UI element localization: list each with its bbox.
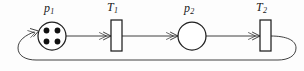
transition-t2-bar xyxy=(260,20,271,51)
transition-t1-label: T1 xyxy=(107,1,118,15)
transition-t2-label: T2 xyxy=(256,1,267,15)
place-p1-label: p1 xyxy=(44,2,54,16)
token-dot xyxy=(44,39,50,45)
token-dot xyxy=(44,28,50,34)
transition-t1-label-subscript: 1 xyxy=(114,6,118,15)
transition-t2[interactable] xyxy=(260,20,271,51)
transition-t1-bar xyxy=(111,20,122,51)
transition-t2-label-subscript: 2 xyxy=(263,6,267,15)
arc-t1-to-p2 xyxy=(122,32,178,40)
place-p2-label-subscript: 2 xyxy=(190,7,194,16)
arc-p1-to-t1 xyxy=(66,32,111,40)
transition-t1-label-base: T xyxy=(107,0,114,14)
place-p2-label: p2 xyxy=(184,2,194,16)
token-dot xyxy=(55,28,61,34)
petri-net-diagram: p1 T1 p2 T2 xyxy=(0,0,304,71)
token-dot xyxy=(55,39,61,45)
place-p1-circle xyxy=(38,22,66,50)
transition-t1[interactable] xyxy=(111,20,122,51)
place-p2-circle xyxy=(178,22,206,50)
place-p1[interactable] xyxy=(38,22,66,50)
place-p2[interactable] xyxy=(178,22,206,50)
transition-t2-label-base: T xyxy=(256,0,263,14)
arc-p2-to-t2 xyxy=(206,32,260,40)
place-p1-label-subscript: 1 xyxy=(50,7,54,16)
